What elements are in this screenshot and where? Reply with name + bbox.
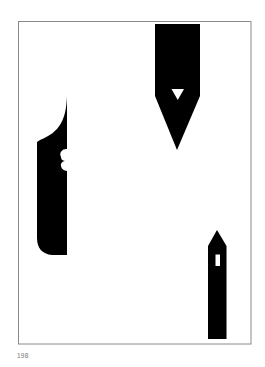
tower-shape (208, 230, 227, 339)
artwork (0, 0, 265, 367)
tower-window (216, 255, 221, 267)
tower-body (208, 230, 227, 339)
page-number: 198 (17, 352, 28, 359)
